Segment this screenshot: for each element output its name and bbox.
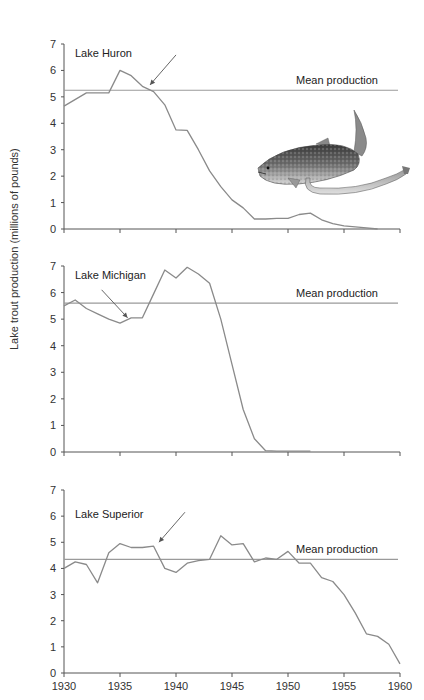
y-tick-label: 6 (50, 510, 56, 522)
y-tick-label: 7 (50, 484, 56, 496)
y-tick-label: 1 (50, 197, 56, 209)
panel-lake-michigan: 01234567Mean productionLake Michigan (50, 260, 400, 458)
y-tick-label: 1 (50, 641, 56, 653)
y-tick-label: 2 (50, 615, 56, 627)
y-tick-label: 3 (50, 366, 56, 378)
mean-production-label: Mean production (296, 74, 378, 86)
y-tick-label: 0 (50, 667, 56, 679)
y-tick-label: 6 (50, 287, 56, 299)
y-tick-label: 0 (50, 223, 56, 235)
y-tick-label: 4 (50, 117, 56, 129)
x-tick-label: 1930 (52, 680, 76, 692)
x-tick-label: 1955 (332, 680, 356, 692)
y-tick-label: 1 (50, 419, 56, 431)
panel-lake-huron: 01234567Mean productionLake Huron (50, 38, 400, 235)
chart-svg: 01234567Mean productionLake Huron 012345… (0, 0, 424, 700)
mean-production-label: Mean production (296, 287, 378, 299)
x-tick-label: 1935 (108, 680, 132, 692)
y-tick-label: 5 (50, 313, 56, 325)
production-line (64, 267, 310, 451)
y-tick-label: 2 (50, 170, 56, 182)
y-tick-label: 2 (50, 393, 56, 405)
mean-production-label: Mean production (296, 543, 378, 555)
y-tick-label: 7 (50, 38, 56, 50)
lake-trout-illustration (258, 110, 410, 194)
arrow-indicator (150, 55, 176, 85)
panel-title: Lake Superior (75, 508, 144, 520)
y-tick-label: 7 (50, 260, 56, 272)
y-tick-label: 4 (50, 562, 56, 574)
y-tick-label: 6 (50, 64, 56, 76)
panel-title: Lake Michigan (75, 269, 146, 281)
y-tick-label: 3 (50, 144, 56, 156)
y-tick-label: 3 (50, 589, 56, 601)
x-tick-label: 1945 (220, 680, 244, 692)
y-tick-label: 5 (50, 536, 56, 548)
x-tick-label: 1940 (164, 680, 188, 692)
x-tick-label: 1960 (388, 680, 412, 692)
panel-lake-superior: 012345671930193519401945195019551960Mean… (50, 484, 412, 692)
arrow-indicator (159, 512, 185, 542)
panel-title: Lake Huron (75, 47, 132, 59)
x-tick-label: 1950 (276, 680, 300, 692)
y-tick-label: 5 (50, 91, 56, 103)
y-tick-label: 4 (50, 340, 56, 352)
y-tick-label: 0 (50, 446, 56, 458)
